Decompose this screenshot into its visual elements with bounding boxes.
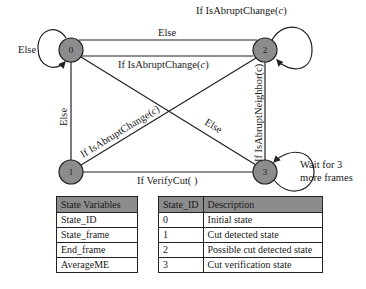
svg-text:1: 1	[69, 167, 74, 177]
state-variable-row: AverageME	[57, 258, 138, 273]
state-id-cell: 1	[159, 228, 204, 243]
label-self-3-line1: Wait for 3	[300, 159, 342, 170]
node-1: 1	[59, 160, 83, 184]
self-loop-2	[272, 27, 312, 69]
table-row: 2 Possible cut detected state	[159, 243, 323, 258]
node-2: 2	[253, 38, 277, 62]
table-row: 3 Cut verification state	[159, 258, 323, 273]
label-2-3: If IsAbruptNeighbor(c)	[253, 63, 265, 162]
label-0-2-bottom: If IsAbruptChange(c)	[118, 59, 209, 71]
label-self-3-line2: more frames	[300, 172, 353, 183]
table-row: 0 Initial state	[159, 213, 323, 228]
state-variable-row: End_frame	[57, 243, 138, 258]
node-0: 0	[59, 38, 83, 62]
svg-text:3: 3	[263, 167, 268, 177]
state-variable-row: State_frame	[57, 228, 138, 243]
state-id-cell: 3	[159, 258, 204, 273]
table-row: 1 Cut detected state	[159, 228, 323, 243]
svg-text:0: 0	[69, 45, 74, 55]
label-0-3: Else	[203, 116, 224, 135]
label-0-1: Else	[58, 108, 69, 126]
state-id-cell: 2	[159, 243, 204, 258]
label-self-0: Else	[18, 44, 36, 55]
description-cell: Initial state	[203, 213, 322, 228]
description-cell: Cut verification state	[203, 258, 322, 273]
description-cell: Possible cut detected state	[203, 243, 322, 258]
state-description-table: State_ID Description 0 Initial state 1 C…	[158, 196, 323, 273]
node-3: 3	[253, 160, 277, 184]
state-id-header: State_ID	[159, 197, 204, 213]
description-header: Description	[203, 197, 322, 213]
description-cell: Cut detected state	[203, 228, 322, 243]
label-1-2: If IsAbruptChange(c)	[78, 103, 162, 161]
state-id-cell: 0	[159, 213, 204, 228]
label-0-2-top: Else	[158, 27, 176, 38]
label-1-3: If VerifyCut( )	[137, 175, 198, 187]
state-variable-row: State_ID	[57, 213, 138, 228]
state-variables-header: State Variables	[57, 197, 138, 213]
label-2-2-top: If IsAbruptChange(c)	[196, 5, 287, 17]
svg-text:2: 2	[263, 45, 268, 55]
state-variables-table: State Variables State_ID State_frame End…	[56, 196, 138, 273]
